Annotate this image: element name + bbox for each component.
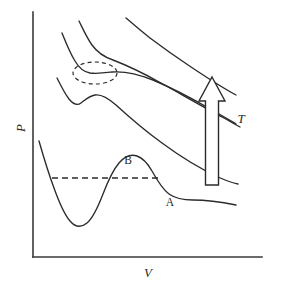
axes-group [33, 12, 262, 257]
y-axis-label: P [13, 124, 28, 133]
temperature-arrow-label: T [237, 111, 245, 126]
point-label-b: B [124, 154, 132, 166]
point-label-a: A [166, 196, 175, 208]
pv-diagram-canvas: P V B A T [0, 0, 290, 293]
pv-isotherm-figure: P V B A T [0, 0, 290, 293]
isotherm-curve-4-highest [126, 18, 236, 95]
x-axis-label: V [144, 265, 154, 280]
